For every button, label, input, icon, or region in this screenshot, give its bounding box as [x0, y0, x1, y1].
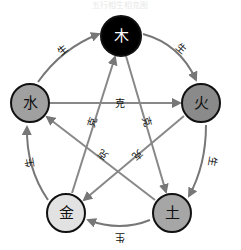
label-earth-metal: 生 — [115, 232, 125, 244]
fire-label: 火 — [194, 94, 209, 112]
node-metal: 金 — [47, 194, 85, 232]
label-fire-earth: 生 — [207, 156, 221, 168]
edge-water-to-wood — [38, 34, 99, 82]
five-elements-diagram: 五行相生相克图 生 生 生 生 生 克 克 克 克 克 木 火 — [0, 0, 241, 250]
metal-label: 金 — [59, 204, 74, 222]
restraining-cycle — [47, 56, 184, 200]
node-fire: 火 — [182, 84, 220, 122]
water-label: 水 — [23, 94, 38, 112]
label-water-wood: 生 — [55, 42, 70, 58]
edge-earth-to-metal — [88, 220, 150, 226]
node-earth: 土 — [153, 194, 191, 232]
label-metal-water: 生 — [23, 157, 37, 169]
edge-fire-to-earth — [189, 125, 206, 196]
earth-label: 土 — [165, 204, 180, 222]
label-water-fire: 克 — [115, 98, 125, 109]
diagram-title: 五行相生相克图 — [92, 0, 148, 10]
edge-wood-to-fire — [143, 34, 196, 80]
wood-label: 木 — [114, 27, 129, 45]
label-earth-water: 克 — [96, 148, 111, 163]
label-wood-fire: 生 — [174, 41, 189, 57]
node-wood: 木 — [101, 16, 141, 56]
restraining-labels: 克 克 克 克 克 — [85, 98, 154, 163]
label-wood-earth: 克 — [140, 116, 154, 129]
node-water: 水 — [11, 84, 49, 122]
